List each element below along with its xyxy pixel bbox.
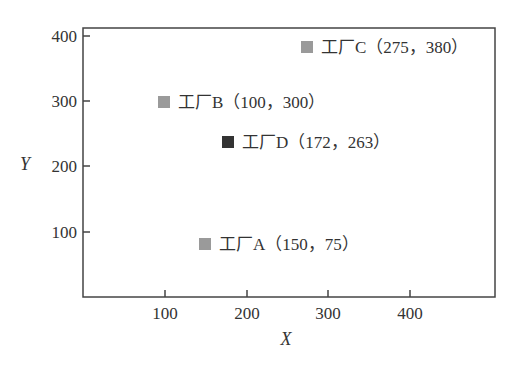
point-label: 工厂D（172，263） xyxy=(242,133,390,152)
square-marker-icon xyxy=(158,96,170,108)
point-factory-b: 工厂B（100，300） xyxy=(158,93,325,112)
square-marker-icon xyxy=(199,238,211,250)
x-tick-300: 300 xyxy=(315,304,341,323)
y-axis-label: Y xyxy=(20,154,32,174)
x-axis: 100 200 300 400 X xyxy=(152,290,423,349)
x-axis-label: X xyxy=(280,329,293,349)
point-factory-d: 工厂D（172，263） xyxy=(222,133,390,152)
square-marker-icon xyxy=(222,136,234,148)
plot-frame xyxy=(83,28,495,297)
y-axis: 400 300 200 100 Y xyxy=(20,27,90,242)
point-factory-a: 工厂A（150，75） xyxy=(199,235,359,254)
scatter-chart: 400 300 200 100 Y 100 200 300 400 X 工厂A（… xyxy=(0,0,513,365)
x-tick-100: 100 xyxy=(152,304,178,323)
point-label: 工厂A（150，75） xyxy=(219,235,359,254)
x-tick-400: 400 xyxy=(397,304,423,323)
y-tick-300: 300 xyxy=(52,92,78,111)
y-tick-400: 400 xyxy=(52,27,78,46)
point-factory-c: 工厂C（275，380） xyxy=(301,38,468,57)
square-marker-icon xyxy=(301,41,313,53)
point-label: 工厂C（275，380） xyxy=(321,38,468,57)
y-tick-200: 200 xyxy=(52,157,78,176)
point-label: 工厂B（100，300） xyxy=(178,93,325,112)
y-tick-100: 100 xyxy=(52,223,78,242)
x-tick-200: 200 xyxy=(234,304,260,323)
